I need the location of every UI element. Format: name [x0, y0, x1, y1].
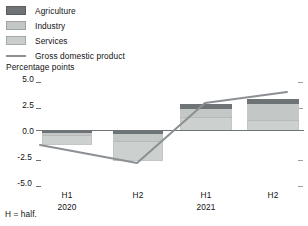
x-tick-label-h1-2020: H1: [47, 190, 87, 200]
x-tick-label-h1-2021: H1: [186, 190, 226, 200]
x-tick-label-h2-2021: H2: [253, 190, 293, 200]
x-tick-label-h2-2020: H2: [118, 190, 158, 200]
chart-root: Agriculture Industry Services Gross dome…: [0, 0, 308, 226]
chart-footnote: H = half.: [5, 209, 37, 219]
plot-area: 5.0 2.5 0.0 -2.5 -5.0: [0, 0, 308, 226]
gdp-line-path: [40, 92, 287, 163]
x-tick-label-year-2021: 2021: [186, 202, 226, 212]
x-tick-label-year-2020: 2020: [47, 202, 87, 212]
